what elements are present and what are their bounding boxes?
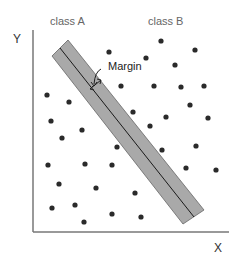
class-b-label: class B bbox=[148, 15, 183, 27]
class-a-point bbox=[49, 205, 54, 210]
class-b-point bbox=[201, 83, 206, 88]
class-a-point bbox=[138, 214, 143, 219]
class-b-point bbox=[151, 83, 156, 88]
class-b-point bbox=[147, 123, 152, 128]
class-a-point bbox=[82, 161, 87, 166]
class-b-point bbox=[205, 115, 210, 120]
class-a-point bbox=[59, 135, 64, 140]
class-b-point bbox=[163, 114, 168, 119]
class-b-point bbox=[178, 84, 183, 89]
class-b-points bbox=[106, 38, 218, 172]
class-a-point bbox=[44, 92, 49, 97]
class-b-point bbox=[193, 143, 198, 148]
class-a-point bbox=[114, 144, 119, 149]
class-a-points bbox=[44, 92, 143, 224]
diagram-svg bbox=[0, 0, 240, 265]
class-b-point bbox=[130, 109, 135, 114]
class-a-point bbox=[45, 162, 50, 167]
class-b-point bbox=[172, 62, 177, 67]
class-a-label: class A bbox=[50, 15, 85, 27]
x-axis-label: X bbox=[214, 241, 222, 255]
class-b-point bbox=[158, 38, 163, 43]
class-b-point bbox=[106, 49, 111, 54]
class-a-point bbox=[72, 202, 77, 207]
class-a-point bbox=[56, 181, 61, 186]
class-a-point bbox=[81, 219, 86, 224]
class-b-point bbox=[143, 55, 148, 60]
class-b-point bbox=[187, 102, 192, 107]
margin-label: Margin bbox=[108, 60, 142, 72]
separating-hyperplane bbox=[60, 48, 194, 217]
y-axis-label: Y bbox=[13, 32, 21, 46]
class-a-point bbox=[132, 190, 137, 195]
class-a-point bbox=[109, 162, 114, 167]
class-b-point bbox=[118, 83, 123, 88]
class-a-point bbox=[93, 185, 98, 190]
class-b-point bbox=[192, 47, 197, 52]
class-a-point bbox=[48, 118, 53, 123]
class-a-point bbox=[79, 127, 84, 132]
class-a-point bbox=[66, 99, 71, 104]
class-b-point bbox=[159, 147, 164, 152]
svm-diagram: class A class B Y X Margin bbox=[0, 0, 240, 265]
class-b-point bbox=[213, 167, 218, 172]
class-b-point bbox=[183, 165, 188, 170]
class-a-point bbox=[109, 211, 114, 216]
